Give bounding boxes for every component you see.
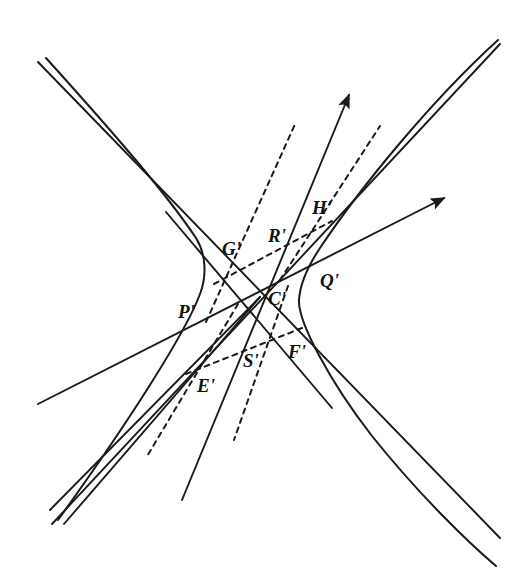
- label-P-prime: P': [177, 301, 195, 322]
- label-H-prime: H': [311, 197, 332, 218]
- geometry-diagram: G' R' H' Q' C' P' F' S' E': [0, 0, 531, 576]
- label-G-prime: G': [222, 238, 241, 259]
- figure-root: G' R' H' Q' C' P' F' S' E': [0, 0, 531, 576]
- label-F-prime: F': [287, 341, 306, 362]
- label-R-prime: R': [267, 225, 286, 246]
- label-Q-prime: Q': [320, 270, 339, 291]
- label-E-prime: E': [196, 375, 215, 396]
- label-S-prime: S': [243, 350, 259, 371]
- label-C-prime: C': [268, 288, 286, 309]
